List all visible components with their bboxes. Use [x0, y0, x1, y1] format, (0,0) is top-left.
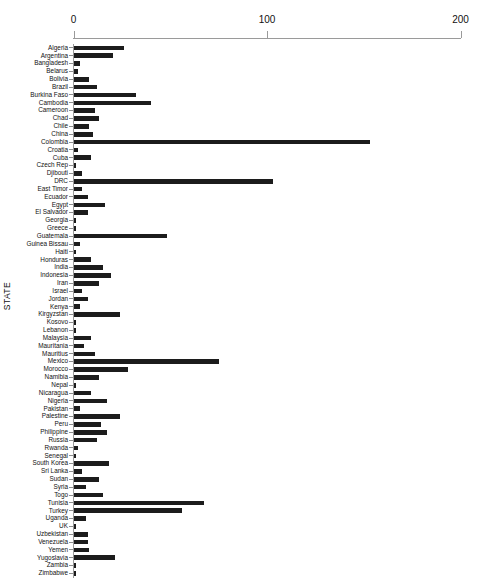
category-tick-mark: [69, 142, 73, 143]
bar-row: South Korea: [0, 460, 489, 468]
bar: [74, 250, 76, 255]
category-tick-mark: [69, 94, 73, 95]
category-tick-mark: [69, 432, 73, 433]
category-label: UK: [0, 523, 71, 529]
category-tick-mark: [69, 447, 73, 448]
bar-row: Georgia: [0, 217, 489, 225]
category-tick-mark: [69, 228, 73, 229]
category-label: Cuba: [0, 155, 71, 161]
category-tick-mark: [69, 353, 73, 354]
bar: [74, 226, 76, 231]
category-label: Guatemala: [0, 233, 71, 239]
x-tick-label: 100: [259, 14, 276, 25]
bar-rows: AlgeriaArgentinaBangladeshBelarusBolivia…: [0, 44, 489, 577]
category-label: Peru: [0, 421, 71, 427]
bar: [74, 352, 95, 357]
category-label: Cambodia: [0, 100, 71, 106]
category-tick-mark: [69, 134, 73, 135]
category-tick-mark: [69, 557, 73, 558]
bar-row: Tunisia: [0, 499, 489, 507]
category-tick-mark: [69, 126, 73, 127]
bar-row: Egypt: [0, 201, 489, 209]
bar-row: Venezuela: [0, 538, 489, 546]
category-label: China: [0, 131, 71, 137]
bar: [74, 328, 76, 333]
bar: [74, 234, 167, 239]
bar: [74, 187, 82, 192]
bar: [74, 320, 76, 325]
bar: [74, 61, 80, 66]
bar-row: Chad: [0, 115, 489, 123]
bar: [74, 540, 88, 545]
bar: [74, 430, 107, 435]
category-label: Yemen: [0, 547, 71, 553]
category-tick-mark: [69, 157, 73, 158]
bar-row: Iran: [0, 279, 489, 287]
category-tick-mark: [69, 220, 73, 221]
category-tick-mark: [69, 181, 73, 182]
bar-row: Zimbabwe: [0, 570, 489, 578]
category-tick-mark: [69, 345, 73, 346]
bar-row: Belarus: [0, 68, 489, 76]
category-label: Honduras: [0, 257, 71, 263]
bar: [74, 555, 115, 560]
category-label: Bolivia: [0, 76, 71, 82]
category-tick-mark: [69, 463, 73, 464]
category-label: Zimbabwe: [0, 570, 71, 576]
category-label: Rwanda: [0, 445, 71, 451]
bar: [74, 461, 109, 466]
bar: [74, 477, 99, 482]
bar: [74, 516, 86, 521]
x-tick-mark: [267, 31, 268, 38]
bar: [74, 454, 76, 459]
category-label: Mauritius: [0, 351, 71, 357]
bar-row: Bangladesh: [0, 60, 489, 68]
bar: [74, 406, 80, 411]
bar-row: Kirgyzstan: [0, 311, 489, 319]
category-label: Burkina Faso: [0, 92, 71, 98]
category-label: Iran: [0, 280, 71, 286]
category-tick-mark: [69, 165, 73, 166]
bar-row: Chile: [0, 122, 489, 130]
bar: [74, 571, 76, 576]
category-tick-mark: [69, 244, 73, 245]
bar-row: Lebanon: [0, 326, 489, 334]
category-tick-mark: [69, 518, 73, 519]
category-tick-mark: [69, 330, 73, 331]
bar: [74, 422, 101, 427]
category-label: Colombia: [0, 139, 71, 145]
category-tick-mark: [69, 236, 73, 237]
x-tick-label: 200: [452, 14, 469, 25]
bar-row: Kenya: [0, 303, 489, 311]
bar: [74, 210, 88, 215]
category-label: Nicaragua: [0, 390, 71, 396]
bar-row: Uganda: [0, 515, 489, 523]
category-label: Czech Rep: [0, 162, 71, 168]
bar: [74, 414, 120, 419]
category-tick-mark: [69, 440, 73, 441]
bar-row: Palestine: [0, 413, 489, 421]
bar-row: Nepal: [0, 381, 489, 389]
category-label: Ecuador: [0, 194, 71, 200]
bar: [74, 171, 82, 176]
category-label: Sri Lanka: [0, 468, 71, 474]
bar-row: Sudan: [0, 475, 489, 483]
bar: [74, 242, 80, 247]
category-tick-mark: [69, 63, 73, 64]
category-tick-mark: [69, 173, 73, 174]
category-label: Uganda: [0, 515, 71, 521]
category-tick-mark: [69, 149, 73, 150]
bar: [74, 289, 82, 294]
category-tick-mark: [69, 408, 73, 409]
category-tick-mark: [69, 502, 73, 503]
category-label: Greece: [0, 225, 71, 231]
category-label: Kosovo: [0, 319, 71, 325]
category-tick-mark: [69, 565, 73, 566]
bar: [74, 281, 99, 286]
category-tick-mark: [69, 189, 73, 190]
category-tick-mark: [69, 283, 73, 284]
bar: [74, 179, 273, 184]
category-label: Chile: [0, 123, 71, 129]
bar-row: Djibouti: [0, 170, 489, 178]
bar-row: Uzbekistan: [0, 530, 489, 538]
